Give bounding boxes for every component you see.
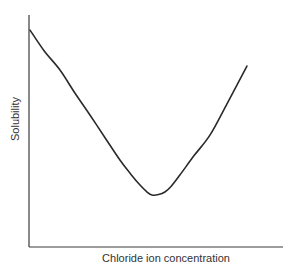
x-axis-label: Chloride ion concentration: [102, 252, 230, 264]
y-axis-label: Solubility: [9, 96, 21, 141]
solubility-chart: Chloride ion concentration Solubility: [0, 0, 296, 266]
series-line-0: [30, 30, 247, 195]
series-layer: [30, 30, 247, 195]
